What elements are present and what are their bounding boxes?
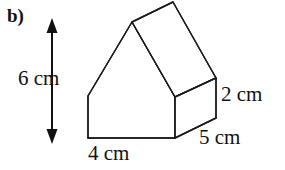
figure-canvas: b) 6 cm 4 cm 5 cm 2 cm: [0, 0, 285, 170]
dimension-label-depth: 5 cm: [199, 127, 240, 148]
dimension-label-side-height: 2 cm: [221, 84, 262, 105]
prism-faces: [88, 2, 216, 138]
arrow-head-up: [47, 18, 58, 33]
dimension-label-width: 4 cm: [88, 143, 129, 164]
arrow-head-down: [47, 129, 58, 144]
part-label: b): [7, 6, 24, 25]
dimension-label-height: 6 cm: [18, 68, 59, 89]
